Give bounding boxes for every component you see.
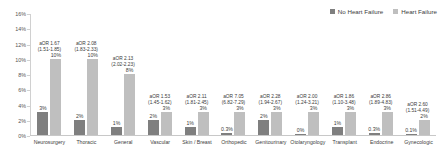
bar-column[interactable]: 10%: [87, 14, 98, 135]
bar[interactable]: [419, 120, 430, 135]
bar[interactable]: [37, 112, 48, 135]
bar-group: aOR 1.86(1.10-3.48)1%3%: [326, 14, 363, 135]
bar-group: aOR 7.05(6.82-7.29)0.3%3%: [215, 14, 252, 135]
y-axis-tick-label: 0%: [1, 133, 26, 139]
bar[interactable]: [124, 74, 135, 135]
bar-value-label: 2%: [260, 113, 268, 119]
y-axis-tick-label: 8%: [1, 72, 26, 78]
bar[interactable]: [369, 133, 380, 135]
bar[interactable]: [148, 120, 159, 135]
bar-column[interactable]: 2%: [258, 14, 269, 135]
x-axis-label: Vascular: [142, 139, 179, 145]
plot-area: 16%14%12%10%8%6%4%2%0% aOR 1.67(1.51-1.8…: [30, 14, 436, 136]
bar-value-label: 3%: [39, 105, 47, 111]
bar-column[interactable]: 3%: [345, 14, 356, 135]
bar[interactable]: [185, 127, 196, 135]
bar-value-label: 1%: [186, 120, 194, 126]
bar[interactable]: [50, 59, 61, 135]
bar-chart: No Heart Failure Heart Failure 16%14%12%…: [0, 0, 443, 162]
bar-group: aOR 2.13(2.02-2.23)1%8%: [105, 14, 142, 135]
bar-column[interactable]: 3%: [198, 14, 209, 135]
bar-column[interactable]: 0%: [295, 14, 306, 135]
bar-column[interactable]: 1%: [185, 14, 196, 135]
y-axis-tick-mark: [27, 136, 30, 137]
bar-group: aOR 2.00(1.24-3.21)0%3%: [289, 14, 326, 135]
y-axis-tick-label: 6%: [1, 87, 26, 93]
bar-column[interactable]: 8%: [124, 14, 135, 135]
y-axis-tick-label: 2%: [1, 118, 26, 124]
bar-column[interactable]: 2%: [74, 14, 85, 135]
y-axis-tick-mark: [27, 45, 30, 46]
bar-value-label: 10%: [51, 52, 61, 58]
bar-column[interactable]: 2%: [148, 14, 159, 135]
y-axis-tick-label: 4%: [1, 103, 26, 109]
bar-value-label: 3%: [383, 105, 391, 111]
bar[interactable]: [87, 59, 98, 135]
bar-column[interactable]: 1%: [111, 14, 122, 135]
bar-column[interactable]: 0.3%: [221, 14, 232, 135]
y-axis-tick-label: 10%: [1, 57, 26, 63]
y-axis-tick-label: 12%: [1, 42, 26, 48]
y-axis-tick-mark: [27, 14, 30, 15]
bar-column[interactable]: 3%: [271, 14, 282, 135]
bar-value-label: 3%: [236, 105, 244, 111]
bar-column[interactable]: 2%: [419, 14, 430, 135]
y-axis-tick-mark: [27, 29, 30, 30]
bar[interactable]: [308, 112, 319, 135]
y-axis-tick-label: 14%: [1, 26, 26, 32]
bar-column[interactable]: 10%: [50, 14, 61, 135]
bar-value-label: 2%: [420, 113, 428, 119]
x-axis-label: Orthopedic: [216, 139, 253, 145]
bar-value-label: 3%: [347, 105, 355, 111]
bar-group: aOR 1.53(1.45-1.62)2%3%: [141, 14, 178, 135]
bar[interactable]: [271, 112, 282, 135]
bar[interactable]: [111, 127, 122, 135]
bar[interactable]: [258, 120, 269, 135]
bar-value-label: 0%: [297, 127, 305, 133]
bar-column[interactable]: 3%: [382, 14, 393, 135]
bar-value-label: 2%: [76, 113, 84, 119]
x-axis-label: Endocrine: [363, 139, 400, 145]
bar-value-label: 1%: [334, 120, 342, 126]
bar-group: aOR 2.60(1.51-4.49)0.1%2%: [399, 14, 436, 135]
bar-value-label: 0.3%: [368, 126, 380, 132]
x-axis-label: Transplant: [326, 139, 363, 145]
x-axis-label: Thoracic: [68, 139, 105, 145]
bar[interactable]: [161, 112, 172, 135]
y-axis-tick-label: 16%: [1, 11, 26, 17]
y-axis-tick-mark: [27, 106, 30, 107]
x-axis-labels: NeurosurgeryThoracicGeneralVascularSkin …: [31, 139, 437, 145]
bar[interactable]: [221, 133, 232, 135]
bar-column[interactable]: 3%: [37, 14, 48, 135]
bar[interactable]: [406, 134, 417, 135]
bar-value-label: 8%: [126, 67, 134, 73]
bar[interactable]: [234, 112, 245, 135]
bar-value-label: 10%: [88, 52, 98, 58]
y-axis-tick-mark: [27, 60, 30, 61]
bar[interactable]: [382, 112, 393, 135]
x-axis-label: Otolaryngology: [289, 139, 326, 145]
bar[interactable]: [295, 134, 306, 135]
bar[interactable]: [198, 112, 209, 135]
x-axis-label: Skin / Breast: [179, 139, 216, 145]
x-axis-label: Neurosurgery: [31, 139, 68, 145]
bar-column[interactable]: 0.1%: [406, 14, 417, 135]
bar-groups: aOR 1.67(1.51-1.85)3%10%aOR 2.08(1.83-2.…: [31, 14, 436, 135]
bar[interactable]: [345, 112, 356, 135]
x-axis-line: [30, 135, 436, 136]
bar-column[interactable]: 0.3%: [369, 14, 380, 135]
bar-column[interactable]: 3%: [161, 14, 172, 135]
bar-value-label: 0.1%: [405, 127, 417, 133]
bar-column[interactable]: 3%: [234, 14, 245, 135]
bar-group: aOR 2.86(1.89-4.83)0.3%3%: [362, 14, 399, 135]
bar[interactable]: [332, 127, 343, 135]
bar-value-label: 3%: [310, 105, 318, 111]
bar-column[interactable]: 3%: [308, 14, 319, 135]
bar-group: aOR 2.08(1.83-2.33)2%10%: [68, 14, 105, 135]
bar-value-label: 3%: [163, 105, 171, 111]
bar-column[interactable]: 1%: [332, 14, 343, 135]
bar-value-label: 1%: [113, 120, 121, 126]
bar-value-label: 3%: [273, 105, 281, 111]
bar[interactable]: [74, 120, 85, 135]
bar-group: aOR 2.28(1.94-2.67)2%3%: [252, 14, 289, 135]
